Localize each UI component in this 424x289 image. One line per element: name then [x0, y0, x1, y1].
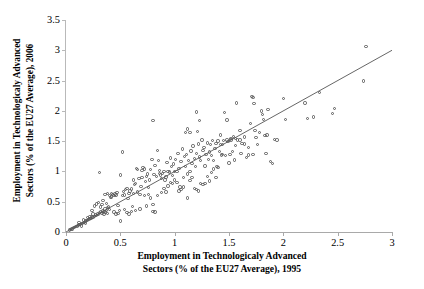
- data-point: [195, 110, 198, 113]
- data-point: [164, 175, 167, 178]
- x-tick-label: 3: [389, 238, 394, 248]
- x-axis-title-line-2: Sectors (% of the EU27 Average), 1995: [46, 262, 398, 275]
- y-tick-label: 1: [55, 166, 60, 176]
- data-point: [233, 158, 236, 161]
- data-point: [208, 179, 211, 182]
- data-point: [197, 189, 200, 192]
- y-axis-title: Employment in Technologicaly Advanced Se…: [11, 38, 36, 202]
- data-point: [182, 185, 185, 188]
- data-point: [101, 199, 104, 202]
- data-point: [126, 197, 129, 200]
- data-point: [156, 149, 159, 152]
- x-tick-mark: [120, 232, 121, 236]
- data-point: [116, 204, 119, 207]
- identity-reference-line: [66, 20, 392, 232]
- data-point: [190, 176, 193, 179]
- data-point: [231, 150, 234, 153]
- data-point: [188, 131, 191, 134]
- data-point: [169, 156, 172, 159]
- data-point: [265, 133, 268, 136]
- data-point: [145, 204, 148, 207]
- data-point: [91, 212, 94, 215]
- data-point: [364, 45, 367, 48]
- data-point: [275, 138, 278, 141]
- data-point: [140, 176, 143, 179]
- data-point: [121, 150, 124, 153]
- x-tick-mark: [392, 232, 393, 236]
- y-axis-title-line-2: Sectors (% of the EU27 Average), 2006: [23, 38, 36, 202]
- data-point: [331, 112, 334, 115]
- data-point: [150, 158, 153, 161]
- y-tick-label: 3.5: [47, 15, 60, 25]
- x-tick-label: 1: [172, 238, 177, 248]
- data-point: [188, 170, 191, 173]
- y-tick-label: 1.5: [47, 136, 60, 146]
- data-point: [158, 172, 161, 175]
- y-tick-label: 0: [55, 227, 60, 237]
- data-point: [252, 102, 255, 105]
- x-axis-title: Employment in Technologicaly Advanced Se…: [46, 249, 398, 275]
- x-tick-label: 2.5: [331, 238, 344, 248]
- x-tick-mark: [66, 232, 67, 236]
- data-point: [191, 144, 194, 147]
- data-point: [201, 149, 204, 152]
- data-point: [166, 184, 169, 187]
- plot-area: 00.511.522.533.5 00.511.522.53: [66, 20, 392, 232]
- data-point: [175, 170, 178, 173]
- y-tick-label: 3: [55, 45, 60, 55]
- data-point: [106, 212, 109, 215]
- data-point: [203, 182, 206, 185]
- data-point: [206, 175, 209, 178]
- data-point: [229, 138, 232, 141]
- y-axis-title-line-1: Employment in Technologicaly Advanced: [11, 38, 24, 202]
- data-point: [119, 173, 122, 176]
- data-point: [153, 164, 156, 167]
- data-point: [227, 161, 230, 164]
- data-point: [264, 152, 267, 155]
- data-point: [239, 152, 242, 155]
- data-point: [225, 118, 228, 121]
- data-point: [238, 129, 241, 132]
- data-point: [145, 175, 148, 178]
- y-tick-label: 0.5: [47, 197, 60, 207]
- data-point: [251, 153, 254, 156]
- x-tick-mark: [338, 232, 339, 236]
- data-point: [203, 164, 206, 167]
- data-point: [225, 138, 228, 141]
- data-point: [143, 167, 146, 170]
- data-point: [132, 192, 135, 195]
- data-point: [181, 147, 184, 150]
- data-point: [254, 136, 257, 139]
- data-point: [189, 149, 192, 152]
- data-point: [200, 138, 203, 141]
- x-tick-mark: [175, 232, 176, 236]
- data-point: [116, 212, 119, 215]
- data-point: [165, 161, 168, 164]
- data-point: [153, 210, 156, 213]
- data-point: [188, 179, 191, 182]
- data-point: [253, 129, 256, 132]
- data-point: [213, 147, 216, 150]
- y-axis-title-container: Employment in Technologicaly Advanced Se…: [0, 0, 46, 240]
- x-tick-mark: [283, 232, 284, 236]
- data-point: [243, 135, 246, 138]
- data-point: [166, 170, 169, 173]
- data-point: [80, 224, 83, 227]
- data-point: [151, 119, 154, 122]
- x-axis-title-line-1: Employment in Technologicaly Advanced: [46, 249, 398, 262]
- x-tick-label: 0: [63, 238, 68, 248]
- data-point: [243, 142, 246, 145]
- x-tick-mark: [229, 232, 230, 236]
- data-point: [228, 153, 231, 156]
- data-point: [139, 185, 142, 188]
- data-point: [235, 101, 238, 104]
- data-point: [202, 146, 205, 149]
- x-tick-label: 1.5: [223, 238, 236, 248]
- x-tick-label: 2: [281, 238, 286, 248]
- data-point: [88, 215, 91, 218]
- data-point: [219, 133, 222, 136]
- data-point: [164, 190, 167, 193]
- y-tick-label: 2.5: [47, 75, 60, 85]
- data-point: [173, 178, 176, 181]
- data-point: [238, 138, 241, 141]
